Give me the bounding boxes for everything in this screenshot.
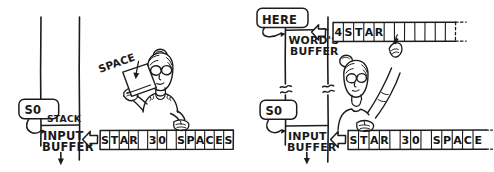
here-label: HERE [262,13,297,27]
words-buffer-label-line2: BUFFER [290,45,339,58]
right-panel: HERE WORD'S BUFFER S0 INPUT BU [257,8,493,165]
stack-pointer-label-right: S0 [266,104,283,118]
svg-text:A: A [453,134,462,147]
here-curved-arrow [263,28,286,38]
down-arrow-icon-right [304,153,310,165]
input-buffer-top-line-right [286,125,328,126]
stack-pointer-label: S0 [25,103,42,117]
resting-hand-icon [357,120,374,131]
svg-text:4: 4 [334,26,342,39]
svg-text:0: 0 [412,134,420,147]
person-icon-right [338,35,403,132]
break-mark-icon-2 [323,85,335,92]
left-panel: S0 STACK INPUT BUFFER [19,17,234,165]
svg-text:3: 3 [149,134,157,147]
svg-text:C: C [205,134,213,147]
svg-text:A: A [196,134,205,147]
svg-text:S: S [225,134,233,147]
svg-text:A: A [120,134,129,147]
svg-text:T: T [355,26,363,39]
svg-text:S: S [433,134,441,147]
here-marker: HERE [257,8,308,28]
svg-text:A: A [370,134,379,147]
s0-curved-arrow-right [267,120,287,134]
stack-label: STACK [47,113,82,124]
svg-text:S: S [177,134,185,147]
input-buffer-tape: S T A R 3 0 S P A C E S [100,130,233,150]
break-mark-icon [280,85,292,92]
input-buffer-tape-right: S T A R 3 0 S P A C E [348,130,493,150]
hand-drawn-diagram: S0 STACK INPUT BUFFER [0,0,494,172]
down-arrow-icon [58,153,64,166]
svg-text:S: S [101,134,109,147]
svg-text:0: 0 [158,134,166,147]
svg-text:P: P [186,134,194,147]
diagram-canvas: S0 STACK INPUT BUFFER [0,0,494,172]
svg-text:3: 3 [402,134,410,147]
svg-text:T: T [111,134,119,147]
svg-text:T: T [360,134,368,147]
words-buffer-tape: 4 S T A R [333,22,466,41]
svg-text:E: E [474,134,482,147]
words-tape-characters: 4 S T A R [334,26,383,39]
svg-text:S: S [345,26,353,39]
svg-text:E: E [215,134,223,147]
svg-text:R: R [129,134,138,147]
svg-text:R: R [375,26,384,39]
input-buffer-label-right-line2: BUFFER [287,141,337,154]
svg-text:S: S [349,134,357,147]
input-buffer-top-line [42,125,80,126]
svg-text:C: C [464,134,472,147]
svg-text:R: R [380,134,389,147]
stack-pointer-marker-right: S0 [260,100,297,119]
svg-text:A: A [365,26,374,39]
svg-text:P: P [443,134,451,147]
